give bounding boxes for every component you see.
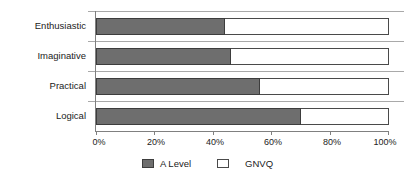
x-tick xyxy=(154,131,155,135)
bar-group-imaginative xyxy=(96,41,389,71)
bar-row xyxy=(96,108,389,125)
category-label-practical: Practical xyxy=(0,80,86,91)
bar-group-logical xyxy=(96,101,389,131)
hollow-square-icon xyxy=(217,159,229,168)
bar-segment-gnvq[interactable] xyxy=(301,108,389,125)
x-tick xyxy=(213,131,214,135)
x-tick xyxy=(388,131,389,135)
bar-segment-gnvq[interactable] xyxy=(225,18,389,35)
plot-area xyxy=(96,11,389,131)
legend-label-gnvq: GNVQ xyxy=(245,158,273,169)
x-tick-label-0: 0% xyxy=(92,137,105,148)
x-tick xyxy=(271,131,272,135)
bar-segment-a-level[interactable] xyxy=(96,108,301,125)
legend-label-a-level: A Level xyxy=(160,158,191,169)
x-tick-label-80: 80% xyxy=(323,137,341,148)
x-axis-line xyxy=(95,131,389,132)
bar-segment-a-level[interactable] xyxy=(96,48,231,65)
x-tick-label-20: 20% xyxy=(147,137,165,148)
x-tick-label-100: 100% xyxy=(373,137,396,148)
x-tick xyxy=(96,131,97,135)
chart-legend: A Level GNVQ xyxy=(0,158,415,169)
bar-segment-gnvq[interactable] xyxy=(260,78,389,95)
stacked-bar-chart: Enthusiastic Imaginative Practical Logic… xyxy=(0,0,415,180)
category-label-imaginative: Imaginative xyxy=(0,50,86,61)
category-label-enthusiastic: Enthusiastic xyxy=(0,20,86,31)
category-label-logical: Logical xyxy=(0,110,86,121)
bar-row xyxy=(96,48,389,65)
legend-entry-a-level[interactable]: A Level xyxy=(142,158,191,169)
bar-row xyxy=(96,18,389,35)
x-tick-label-40: 40% xyxy=(206,137,224,148)
filled-square-icon xyxy=(142,159,154,168)
bar-group-practical xyxy=(96,71,389,101)
x-tick xyxy=(330,131,331,135)
bar-row xyxy=(96,78,389,95)
bar-group-enthusiastic xyxy=(96,11,389,41)
bar-segment-a-level[interactable] xyxy=(96,18,225,35)
bar-segment-a-level[interactable] xyxy=(96,78,260,95)
x-tick-label-60: 60% xyxy=(264,137,282,148)
legend-entry-gnvq[interactable]: GNVQ xyxy=(217,158,273,169)
bar-segment-gnvq[interactable] xyxy=(231,48,389,65)
